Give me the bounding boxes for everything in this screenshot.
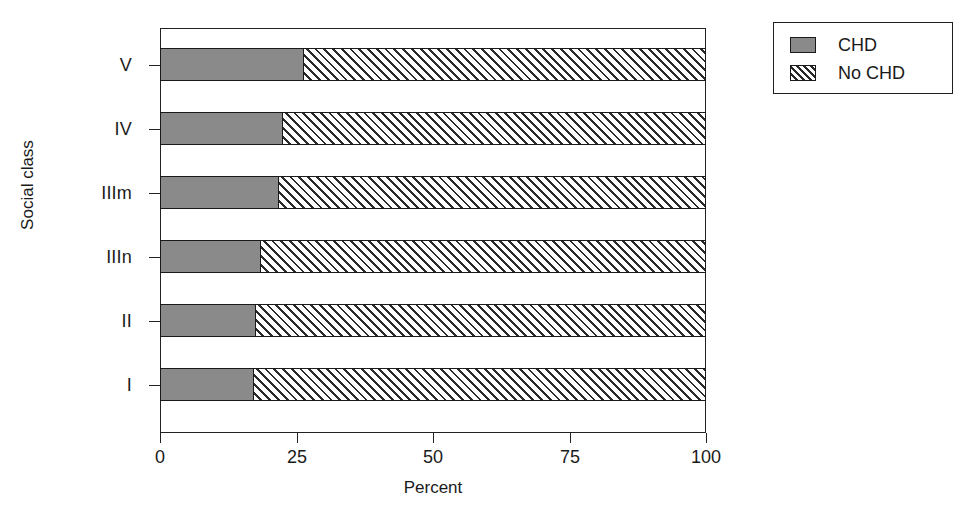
x-tick-label-50: 50 [398,447,468,468]
bar-row-IV [160,112,706,145]
y-tick-label-V: V [72,56,132,74]
x-axis-title: Percent [160,478,706,498]
bar-row-I [160,368,706,401]
bar-segment-no-chd [261,240,706,273]
y-tick-mark-IIIn [149,257,160,258]
y-tick-mark-IV [149,129,160,130]
bar-segment-chd [160,112,283,145]
y-tick-mark-I [149,385,160,386]
bar-segment-chd [160,240,261,273]
x-tick-mark-50 [433,433,434,443]
x-tick-mark-75 [570,433,571,443]
y-tick-mark-IIIm [149,193,160,194]
bar-segment-chd [160,48,304,81]
bar-row-II [160,304,706,337]
legend-item-chd: CHD [774,31,952,59]
y-tick-label-IIIn: IIIn [72,248,132,266]
bar-segment-no-chd [279,176,706,209]
bar-segment-no-chd [304,48,706,81]
x-tick-mark-100 [706,433,707,443]
chart-legend: CHD No CHD [773,22,953,94]
x-tick-label-0: 0 [125,447,195,468]
y-tick-mark-V [149,65,160,66]
legend-label-no-chd: No CHD [838,63,905,84]
y-tick-label-IIIm: IIIm [72,184,132,202]
y-tick-label-II: II [72,312,132,330]
bar-row-IIIn [160,240,706,273]
bar-row-IIIm [160,176,706,209]
y-tick-mark-II [149,321,160,322]
y-tick-label-I: I [72,376,132,394]
y-axis-title: Social class [18,105,38,265]
x-tick-label-25: 25 [262,447,332,468]
bar-segment-chd [160,176,279,209]
x-tick-mark-25 [297,433,298,443]
legend-swatch-no-chd-icon [790,65,816,81]
y-tick-label-IV: IV [72,120,132,138]
bar-segment-no-chd [256,304,706,337]
x-tick-label-75: 75 [535,447,605,468]
bar-row-V [160,48,706,81]
chart-container: Social class V IV IIIm IIIn II I 0 25 [0,0,966,521]
x-tick-label-100: 100 [671,447,741,468]
bar-segment-chd [160,304,256,337]
legend-swatch-chd-icon [790,37,816,53]
bar-segment-no-chd [254,368,706,401]
legend-label-chd: CHD [838,35,877,56]
x-tick-mark-0 [160,433,161,443]
legend-item-no-chd: No CHD [774,59,952,87]
bar-segment-chd [160,368,254,401]
bar-segment-no-chd [283,112,706,145]
